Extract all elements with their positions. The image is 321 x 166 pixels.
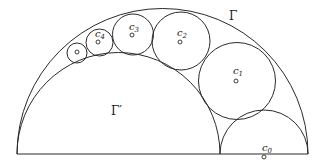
center-point-c0 <box>262 155 266 159</box>
label-c2: c2 <box>177 27 188 40</box>
center-point-c5 <box>75 50 79 54</box>
center-point-c4 <box>96 40 100 44</box>
center-point-c2 <box>178 40 182 44</box>
outer-arc-gamma <box>17 8 308 154</box>
center-point-c1 <box>234 79 238 83</box>
pappus-chain-diagram: c0c1c2c3c4 Γ Γ′ <box>0 0 321 166</box>
gamma-label: Γ <box>229 9 237 23</box>
chain-circles: c0c1c2c3c4 <box>67 12 308 159</box>
center-point-c3 <box>130 33 134 37</box>
label-c0: c0 <box>262 142 273 155</box>
label-c3: c3 <box>129 21 140 34</box>
label-c1: c1 <box>233 65 243 78</box>
gamma-prime-label: Γ′ <box>111 104 122 118</box>
